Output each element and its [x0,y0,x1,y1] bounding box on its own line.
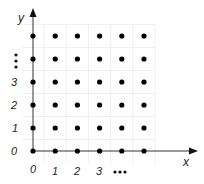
y-tick-0: 0 [11,145,18,157]
lattice-point [141,102,146,107]
y-continuation-ellipsis-icon [14,53,17,68]
lattice-point [30,33,35,38]
x-tick-0: 0 [30,163,37,175]
x-axis-arrow-icon [189,148,198,155]
y-tick-2: 2 [10,99,17,111]
lattice-point [97,148,102,153]
lattice-point [30,125,35,130]
x-axis-label: x [182,155,190,169]
lattice-point [75,125,80,130]
lattice-point [75,56,80,61]
lattice-point [75,148,80,153]
lattice-point [141,125,146,130]
y-tick-3: 3 [11,76,18,88]
lattice-point [141,79,146,84]
x-tick-2: 2 [73,165,80,177]
lattice-point [119,56,124,61]
lattice-diagram: x y 0 1 2 3 0 1 2 3 [0,0,204,184]
lattice-point [30,56,35,61]
lattice-point [141,33,146,38]
lattice-point [53,102,58,107]
lattice-point [97,102,102,107]
lattice-point [53,79,58,84]
lattice-point [53,33,58,38]
lattice-point [53,148,58,153]
y-axis-label: y [17,11,25,25]
lattice-point [53,56,58,61]
gridlines [22,25,155,163]
lattice-point [30,79,35,84]
y-axis-arrow-icon [30,8,37,17]
lattice-point [119,102,124,107]
lattice-point [119,33,124,38]
lattice-point [97,33,102,38]
lattice-point [75,102,80,107]
lattice-point [75,33,80,38]
x-continuation-ellipsis-icon [113,170,126,173]
lattice-point [30,148,35,153]
lattice-point [30,102,35,107]
lattice-point [141,56,146,61]
lattice-point [97,125,102,130]
lattice-point [53,125,58,130]
x-tick-3: 3 [96,165,103,177]
lattice-point [119,79,124,84]
lattice-point [97,79,102,84]
lattice-point [141,148,146,153]
lattice-point [97,56,102,61]
x-tick-1: 1 [52,165,58,177]
lattice-svg: x y 0 1 2 3 0 1 2 3 [0,0,204,184]
lattice-point [75,79,80,84]
lattice-point [119,125,124,130]
lattice-point [119,148,124,153]
y-tick-1: 1 [12,122,18,134]
